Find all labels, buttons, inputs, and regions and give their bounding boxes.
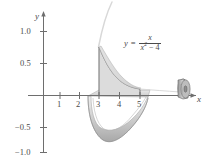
y-axis-label: y xyxy=(35,12,39,21)
denominator-exponent: 2 xyxy=(144,42,147,48)
x-tick-label-1: 1 xyxy=(57,100,61,109)
figure-solid-of-revolution: y x 1.0 0.5 −0.5 −1.0 1 2 3 4 5 y = x x2… xyxy=(0,0,209,164)
equation-denominator: x2 − 4 xyxy=(139,44,162,52)
x-tick-label-2: 2 xyxy=(76,100,80,109)
equation-lhs: y xyxy=(124,38,128,48)
x-tick-label-3: 3 xyxy=(96,100,100,109)
y-tick-label-3: −0.5 xyxy=(15,123,30,132)
equation-equals: = xyxy=(131,38,136,48)
equation-label: y = x x2 − 4 xyxy=(124,34,161,53)
denominator-rest: − 4 xyxy=(149,43,160,52)
x-tick-label-5: 5 xyxy=(137,100,141,109)
y-tick-label-2: 0.5 xyxy=(20,59,31,68)
curve-upper-asymptote-branch xyxy=(99,2,113,47)
y-tick-label-1: 1.0 xyxy=(20,27,31,36)
y-tick-label-4: −1.0 xyxy=(15,148,30,157)
figure-canvas xyxy=(0,0,209,164)
equation-fraction: x x2 − 4 xyxy=(139,34,162,53)
representative-washer-element xyxy=(178,79,190,99)
shaded-region-under-curve xyxy=(99,46,141,95)
x-axis-label: x xyxy=(197,95,201,104)
x-tick-label-4: 4 xyxy=(117,100,121,109)
